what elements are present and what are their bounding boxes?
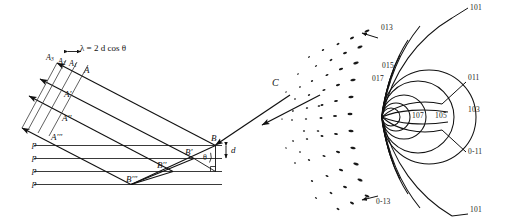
figure-vector-layer [0,0,510,221]
arc-index-107: 107 [412,112,424,120]
arc-index-101-bottom: 101 [470,206,482,214]
arc-index-013: 013 [381,24,393,32]
ray-label-a-double-prime: A'' [62,114,71,123]
arc-index-0-11: 0-11 [468,148,482,156]
ray-label-a-triple-prime: A''' [51,133,62,142]
plane-label-p-1: p [32,140,37,149]
diffraction-arcs [382,18,476,216]
plane-label-p-4: p [32,179,37,188]
d-spacing-label: d [231,146,236,155]
reflected-rays [22,63,216,185]
reflection-point-label-b: B [211,134,217,143]
reflection-point-label-b-double-prime: B'' [157,161,166,170]
bragg-equation-text: λ = 2 d cos θ [80,43,126,53]
arc-index-017: 017 [372,75,384,83]
arc-index-105: 105 [435,112,447,120]
wavefront-label-a3: A3 [46,54,54,63]
diffraction-speckles [281,29,370,211]
incident-beam-ray [216,95,291,145]
reflection-point-label-b-triple-prime: B''' [126,175,137,184]
theta-angle-label: θ [203,154,207,162]
arc-index-015: 015 [382,62,394,70]
bragg-equation: λ = 2 d cos θ [80,44,126,53]
wavefront-label-a1: A1 [69,60,77,69]
wavefront-label-a2: A2 [58,58,66,67]
plane-label-p-3: p [32,166,37,175]
incident-beam-label-c-left: C [272,78,279,88]
ray-label-a-prime: A' [64,90,71,99]
ray-label-a: A [84,66,90,75]
arc-index-103: 103 [468,106,480,114]
arc-index-101-top: 101 [470,4,482,12]
arc-index-011: 011 [468,74,480,82]
plane-label-p-2: p [32,153,37,162]
diffraction-figure: λ = 2 d cos θ A3 A2 A1 A A' A'' A''' p p… [0,0,510,221]
reflection-point-label-b-prime: B' [185,148,192,157]
arc-index-0-13: 0-13 [376,198,391,206]
pattern-incident-beam [262,95,320,125]
incident-ray-paths [131,146,216,185]
